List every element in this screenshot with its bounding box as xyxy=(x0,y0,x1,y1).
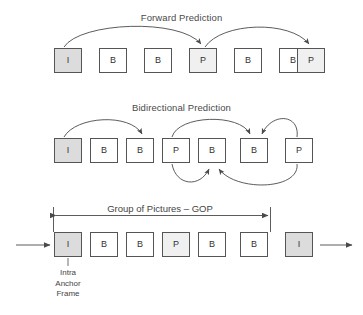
frame-box-forward-2: B xyxy=(144,48,172,73)
frame-box-forward-1: B xyxy=(99,48,127,73)
anchor-label-line-1: Intra xyxy=(36,268,100,279)
forward-arrow-p-to-p xyxy=(205,27,309,47)
frame-box-gop-1: B xyxy=(90,232,118,257)
frame-box-gop-0: I xyxy=(54,232,82,257)
forward-prediction-title: Forward Prediction xyxy=(0,12,363,23)
frame-label: B xyxy=(101,146,107,155)
frame-label: B xyxy=(155,56,161,65)
frame-label: B xyxy=(290,56,296,65)
forward-arrow-i-to-p xyxy=(64,26,201,47)
frame-label: B xyxy=(101,240,107,249)
frame-label: I xyxy=(67,146,70,155)
bidir-arrow-p-to-b-top xyxy=(172,119,250,137)
frame-label: P xyxy=(296,146,302,155)
bidir-arrow-i-to-b xyxy=(64,120,142,137)
frame-label: B xyxy=(209,146,215,155)
frame-box-bidir-0: I xyxy=(54,138,82,163)
frame-label: I xyxy=(298,240,301,249)
frame-box-forward-4: B xyxy=(234,48,262,73)
frame-box-gop-3: P xyxy=(162,232,190,257)
anchor-label-line-3: Frame xyxy=(36,289,100,300)
gop-bracket-label: Group of Pictures – GOP xyxy=(85,203,235,214)
frame-label: P xyxy=(200,56,206,65)
bidir-arrow-p2-to-b-bottom xyxy=(219,164,297,185)
frame-label: P xyxy=(308,56,314,65)
frame-box-forward-3: P xyxy=(189,48,217,73)
frame-prediction-diagram: Forward Prediction I B B P B B P Bidirec… xyxy=(0,0,363,315)
frame-label: P xyxy=(173,240,179,249)
frame-label: B xyxy=(209,240,215,249)
anchor-label-line-2: Anchor xyxy=(36,279,100,290)
frame-label: B xyxy=(251,146,257,155)
frame-label: P xyxy=(173,146,179,155)
frame-label: I xyxy=(67,240,70,249)
bidir-arrow-p-to-b-bottom xyxy=(172,164,209,182)
frame-box-bidir-5: B xyxy=(240,138,268,163)
frame-label: B xyxy=(251,240,257,249)
bidirectional-prediction-title: Bidirectional Prediction xyxy=(0,102,363,113)
frame-box-gop-5: B xyxy=(240,232,268,257)
frame-box-bidir-3: P xyxy=(162,138,190,163)
bidir-arrow-p2-to-b-top xyxy=(262,119,297,137)
frame-label: B xyxy=(137,240,143,249)
frame-box-bidir-4: B xyxy=(198,138,226,163)
frame-box-bidir-6: P xyxy=(285,138,313,163)
frame-label: I xyxy=(67,56,70,65)
frame-box-forward-6: P xyxy=(297,48,325,73)
frame-box-bidir-2: B xyxy=(126,138,154,163)
frame-box-forward-0: I xyxy=(54,48,82,73)
frame-box-gop-6: I xyxy=(285,232,313,257)
intra-anchor-frame-label: Intra Anchor Frame xyxy=(36,268,100,300)
frame-box-bidir-1: B xyxy=(90,138,118,163)
frame-label: B xyxy=(245,56,251,65)
frame-label: B xyxy=(110,56,116,65)
frame-label: B xyxy=(137,146,143,155)
frame-box-gop-4: B xyxy=(198,232,226,257)
frame-box-gop-2: B xyxy=(126,232,154,257)
